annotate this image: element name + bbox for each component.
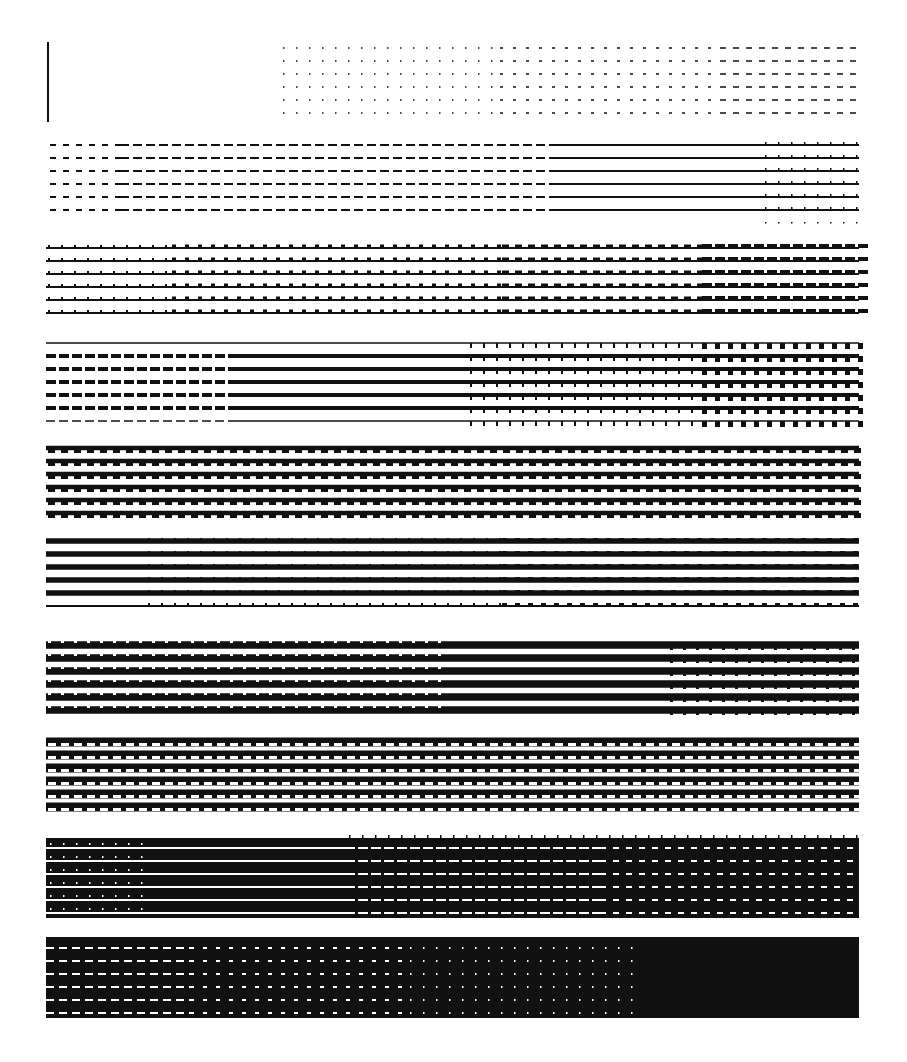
tick-mark xyxy=(632,564,637,567)
tick-mark xyxy=(819,257,829,261)
tick-mark xyxy=(671,603,676,606)
tick-mark xyxy=(509,369,511,374)
tick-mark xyxy=(645,551,650,554)
gap-mark xyxy=(347,706,350,708)
tick-mark xyxy=(775,577,780,580)
tick-mark xyxy=(748,645,751,650)
tick-mark xyxy=(749,538,754,541)
tick-mark xyxy=(819,408,824,414)
band-9-fill xyxy=(46,838,859,918)
tick-mark xyxy=(715,421,720,427)
tick-mark xyxy=(832,244,842,248)
tick-mark xyxy=(658,564,663,567)
tick-mark xyxy=(291,577,293,580)
tick-mark xyxy=(858,395,863,401)
white-dash xyxy=(763,769,771,772)
white-dash xyxy=(659,743,667,746)
gap-mark xyxy=(113,706,116,708)
white-dash xyxy=(646,769,654,772)
tick-mark xyxy=(684,590,689,593)
tick-mark xyxy=(317,538,319,541)
gap-mark xyxy=(373,693,376,695)
white-dash xyxy=(425,756,433,759)
tick-mark xyxy=(269,474,276,479)
tick-mark xyxy=(696,645,699,650)
tick-mark xyxy=(839,671,842,676)
gap-mark xyxy=(61,667,64,669)
tick-mark xyxy=(278,590,280,593)
tick-mark xyxy=(678,421,680,426)
tick-mark xyxy=(658,551,663,554)
tick-mark xyxy=(126,258,128,261)
gap-mark xyxy=(165,654,168,656)
tick-mark xyxy=(295,500,302,505)
white-dash xyxy=(373,795,381,798)
tick-mark xyxy=(217,474,224,479)
tick-mark xyxy=(399,461,406,466)
tick-mark xyxy=(606,310,613,314)
tick-mark xyxy=(620,487,627,492)
tick-mark xyxy=(715,356,720,362)
tick-mark xyxy=(819,369,824,375)
tick-mark xyxy=(570,835,572,838)
tick-mark xyxy=(813,710,816,715)
white-dash xyxy=(412,808,420,811)
tick-mark xyxy=(126,461,133,466)
tick-mark xyxy=(678,356,680,361)
white-dash xyxy=(711,795,719,798)
tick-mark xyxy=(61,487,68,492)
tick-mark xyxy=(815,487,822,492)
tick-mark xyxy=(780,244,790,248)
gap-mark xyxy=(230,654,233,656)
tick-mark xyxy=(161,564,163,567)
tick-mark xyxy=(780,270,790,274)
gap-mark xyxy=(126,706,129,708)
tick-mark xyxy=(115,869,117,871)
white-dash xyxy=(555,743,563,746)
tick-mark xyxy=(187,551,189,554)
tick-mark xyxy=(671,551,676,554)
tick-mark xyxy=(276,297,280,301)
tick-mark xyxy=(74,297,76,300)
tick-mark xyxy=(711,513,718,518)
tick-mark xyxy=(289,258,293,262)
tick-mark xyxy=(321,487,328,492)
tick-mark xyxy=(548,356,550,361)
gap-mark xyxy=(269,706,272,708)
tick-mark xyxy=(425,500,432,505)
tick-mark xyxy=(754,309,764,313)
tick-mark xyxy=(748,671,751,676)
tick-mark xyxy=(698,487,705,492)
tick-mark xyxy=(74,513,81,518)
gap-mark xyxy=(204,641,207,643)
tick-mark xyxy=(483,395,485,400)
white-dash xyxy=(828,795,836,798)
tick-mark xyxy=(502,564,507,567)
tick-mark xyxy=(61,271,63,274)
white-dash xyxy=(295,782,303,785)
tick-mark xyxy=(425,474,432,479)
tick-mark xyxy=(152,513,159,518)
tick-mark xyxy=(473,551,475,554)
white-dash xyxy=(321,795,329,798)
tick-mark xyxy=(632,603,637,606)
white-dash xyxy=(61,795,69,798)
tick-mark xyxy=(606,590,611,593)
white-dash xyxy=(620,795,628,798)
gap-mark xyxy=(347,654,350,656)
tick-mark xyxy=(806,309,816,313)
tick-mark xyxy=(702,395,707,401)
white-dash xyxy=(854,769,862,772)
tick-mark xyxy=(632,297,639,301)
tick-mark xyxy=(152,258,154,261)
tick-mark xyxy=(100,271,102,274)
tick-mark xyxy=(421,538,423,541)
tick-mark xyxy=(698,461,705,466)
white-dash xyxy=(399,782,407,785)
tick-mark xyxy=(128,869,130,871)
tick-mark xyxy=(554,577,559,580)
tick-mark xyxy=(74,310,76,313)
tick-mark xyxy=(561,356,563,361)
tick-mark xyxy=(148,538,150,541)
tick-mark xyxy=(776,513,783,518)
